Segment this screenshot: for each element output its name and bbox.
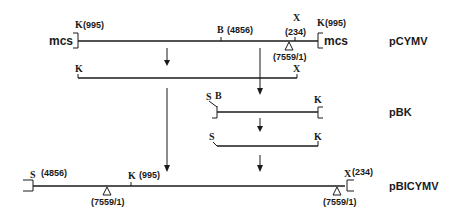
pbk-name: pBK [389, 106, 412, 118]
pbicymv-left-bracket [23, 180, 33, 191]
mcs-right-bracket [318, 33, 323, 48]
cloning-diagram: mcs K (995) B (4856) X (234) (7559/1) K … [0, 0, 456, 220]
pbicymv-junction-right: (7559/1) [323, 197, 357, 207]
x-site-label: X [293, 12, 301, 23]
k-right-position: (995) [325, 18, 346, 28]
k-left-position: (995) [83, 20, 104, 30]
sk-fragment: S K [209, 131, 322, 146]
junction-position: (7559/1) [273, 52, 307, 62]
pbicymv-x-position: (234) [352, 167, 373, 177]
pbicymv-construct: S (4856) (7559/1) K (995) (7559/1) X (23… [23, 167, 439, 207]
arrow-down-icon [164, 48, 170, 66]
pcymv-construct: mcs K (995) B (4856) X (234) (7559/1) K … [49, 12, 428, 62]
pbicymv-junction-left: (7559/1) [91, 197, 125, 207]
arrow-down-icon [164, 88, 170, 172]
pbk-construct: S B K pBK [206, 90, 412, 118]
mcs-left-label: mcs [49, 34, 73, 48]
kx-fragment: K X [75, 63, 301, 78]
arrow-down-icon [257, 48, 263, 95]
pbicymv-k-position: (995) [139, 170, 160, 180]
pcymv-name: pCYMV [389, 35, 428, 47]
s-site-slant [213, 142, 217, 146]
b-site-position: (4856) [227, 25, 253, 35]
k-left-label: K [75, 19, 83, 30]
junction-triangle-icon [333, 187, 341, 195]
k-right-label: K [317, 17, 325, 28]
junction-triangle-icon [285, 42, 293, 50]
kx-k-label: K [75, 63, 83, 74]
pbk-b-label: B [215, 90, 222, 101]
pbk-k-label: K [314, 94, 322, 105]
x-site-position: (234) [285, 27, 306, 37]
arrow-down-icon [257, 155, 263, 172]
pbk-right-bracket [318, 107, 323, 118]
kx-x-label: X [293, 63, 301, 74]
arrow-down-icon [257, 118, 263, 132]
pbicymv-right-bracket [347, 180, 354, 191]
mcs-left-bracket [73, 33, 78, 48]
sk-s-label: S [209, 131, 215, 142]
junction-triangle-icon [103, 187, 111, 195]
pbk-s-label: S [206, 91, 212, 102]
mcs-right-label: mcs [324, 34, 348, 48]
pbk-left-bracket [212, 106, 217, 118]
pbicymv-k-label: K [128, 170, 136, 181]
pbicymv-x-label: X [344, 168, 352, 179]
pbicymv-s-position: (4856) [41, 168, 67, 178]
b-site-label: B [217, 24, 224, 35]
pbicymv-name: pBICYMV [389, 180, 439, 192]
pbicymv-s-label: S [30, 169, 36, 180]
sk-k-label: K [314, 131, 322, 142]
